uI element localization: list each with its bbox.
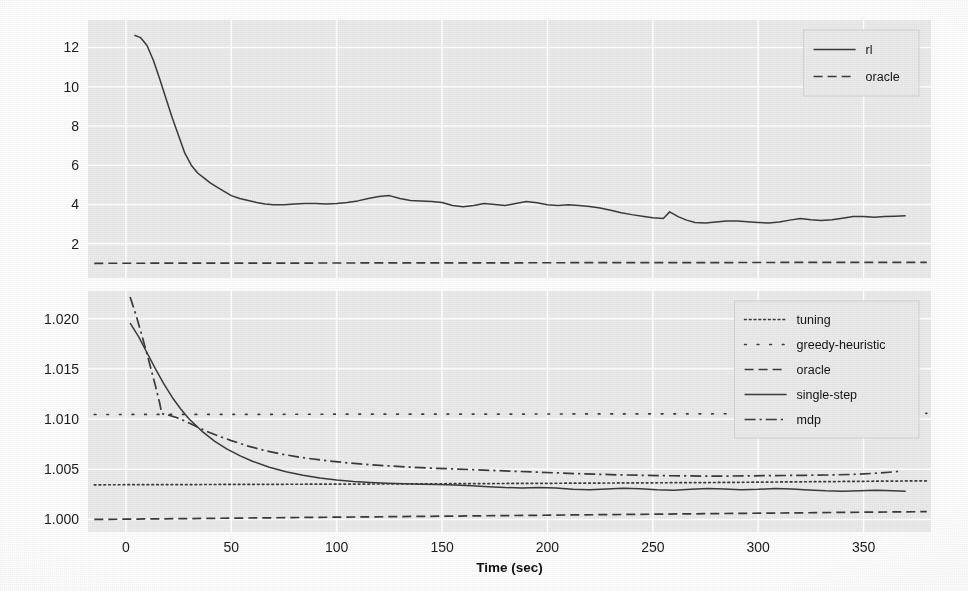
legend-label-rl: rl — [866, 43, 873, 57]
figure-container: 24681012rloracle1.0001.0051.0101.0151.02… — [0, 0, 968, 591]
legend-label-greedy-heuristic: greedy-heuristic — [797, 338, 886, 352]
x-tick-label: 250 — [641, 539, 665, 555]
x-tick-label: 100 — [325, 539, 349, 555]
legend-label-mdp: mdp — [797, 413, 821, 427]
x-tick-label: 350 — [852, 539, 876, 555]
legend-label-oracle: oracle — [866, 70, 900, 84]
y-tick-label: 4 — [71, 196, 79, 212]
chart-svg: 24681012rloracle1.0001.0051.0101.0151.02… — [0, 0, 968, 591]
y-tick-label: 12 — [63, 39, 79, 55]
x-tick-label: 200 — [536, 539, 560, 555]
x-axis-title: Time (sec) — [476, 560, 543, 575]
y-tick-label: 10 — [63, 79, 79, 95]
y-tick-label: 2 — [71, 236, 79, 252]
y-tick-label: 8 — [71, 118, 79, 134]
x-tick-label: 300 — [747, 539, 771, 555]
x-tick-label: 0 — [122, 539, 130, 555]
y-tick-label: 1.000 — [44, 511, 79, 527]
x-axis-bottom: 050100150200250300350Time (sec) — [122, 539, 875, 575]
y-axis-bottom: 1.0001.0051.0101.0151.020 — [44, 311, 79, 528]
legend-top: rloracle — [804, 30, 919, 96]
panel-top: 24681012rloracle — [63, 20, 931, 278]
y-tick-label: 1.005 — [44, 461, 79, 477]
legend-label-single-step: single-step — [797, 388, 857, 402]
panel-bottom: 1.0001.0051.0101.0151.020050100150200250… — [44, 291, 931, 575]
y-axis-top: 24681012 — [63, 39, 79, 251]
x-tick-label: 50 — [224, 539, 240, 555]
legend-label-oracle: oracle — [797, 363, 831, 377]
x-tick-label: 150 — [430, 539, 454, 555]
legend-box — [804, 30, 919, 96]
legend-bottom: tuninggreedy-heuristicoraclesingle-stepm… — [735, 301, 919, 438]
y-tick-label: 6 — [71, 157, 79, 173]
y-tick-label: 1.015 — [44, 361, 79, 377]
y-tick-label: 1.020 — [44, 311, 79, 327]
legend-label-tuning: tuning — [797, 313, 831, 327]
y-tick-label: 1.010 — [44, 411, 79, 427]
